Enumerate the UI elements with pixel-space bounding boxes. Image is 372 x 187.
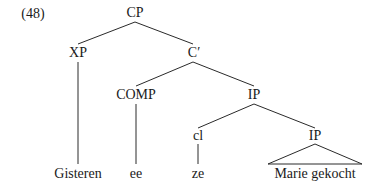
leaf-marie-gekocht: Marie gekocht (274, 167, 355, 181)
example-number: (48) (21, 7, 44, 21)
triangle-ip-lower (268, 144, 362, 164)
node-cp: CP (126, 6, 143, 20)
node-c-bar: C′ (188, 46, 200, 60)
edge-cbar-ip (193, 62, 254, 86)
edge-ip-cl (198, 104, 254, 128)
node-xp: XP (69, 46, 87, 60)
node-cl: cl (193, 129, 203, 143)
node-ip-lower: IP (309, 129, 321, 143)
edge-cbar-comp (136, 62, 193, 86)
node-comp: COMP (116, 88, 156, 102)
leaf-ee: ee (130, 167, 142, 181)
edge-cp-cbar (135, 22, 193, 44)
syntax-tree-diagram: (48) CP XP C′ COMP IP cl IP Gisteren ee … (0, 0, 372, 187)
node-ip-upper: IP (248, 88, 260, 102)
leaf-ze: ze (192, 167, 204, 181)
edge-cp-xp (78, 22, 135, 44)
tree-edges (0, 0, 372, 187)
edge-ip-ip (254, 104, 315, 128)
leaf-gisteren: Gisteren (54, 167, 101, 181)
